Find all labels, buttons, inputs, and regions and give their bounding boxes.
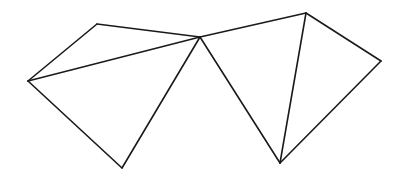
edge-D-C [122,37,200,168]
edge-C-E [200,13,306,37]
triangle-line-drawing [0,0,409,190]
edge-A-D [28,81,122,168]
diagram-canvas [0,0,409,190]
edge-E-F [306,13,381,61]
edge-B-C [97,24,200,37]
edge-C-G [200,37,280,163]
